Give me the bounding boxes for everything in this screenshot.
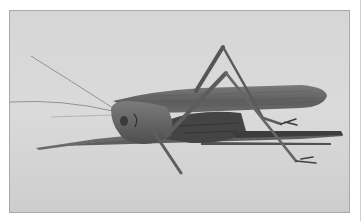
katydid-photo bbox=[10, 11, 350, 213]
page-edge-line bbox=[360, 0, 361, 221]
photo-frame: katydid bbox=[9, 10, 350, 213]
eye bbox=[120, 116, 128, 126]
